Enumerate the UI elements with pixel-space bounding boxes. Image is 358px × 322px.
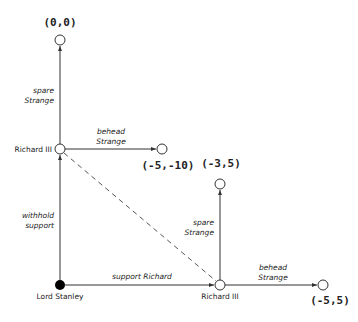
action-label-withhold: support — [25, 221, 55, 230]
game-tree-diagram: (0,0) (-5,-10) (-3,5) (-5,5) Lord Stanle… — [0, 0, 358, 322]
action-label-withhold: withhold — [22, 211, 54, 220]
action-label-bottom-behead: behead — [259, 263, 287, 272]
information-set-dashed-line — [64, 153, 216, 281]
payoff-label: (-5,5) — [310, 294, 350, 307]
payoff-label: (-3,5) — [201, 157, 241, 170]
payoff-label: (0,0) — [43, 16, 76, 29]
richard-top-node — [55, 144, 65, 154]
action-label-support-richard: support Richard — [112, 272, 172, 281]
player-label-richard-bottom: Richard III — [201, 292, 239, 301]
action-label-top-behead: Strange — [96, 137, 126, 146]
terminal-node-m3-5 — [215, 179, 225, 189]
action-label-top-spare: Strange — [24, 96, 54, 105]
action-label-bottom-spare: spare — [193, 218, 214, 227]
player-label-richard-top: Richard III — [15, 145, 53, 154]
action-label-bottom-spare: Strange — [184, 228, 214, 237]
action-label-top-spare: spare — [33, 86, 54, 95]
lord-stanley-node — [55, 280, 65, 290]
richard-bottom-node — [215, 280, 225, 290]
terminal-node-0-0 — [55, 35, 65, 45]
terminal-node-m5-5 — [318, 280, 328, 290]
action-label-bottom-behead: Strange — [258, 273, 288, 282]
payoff-label: (-5,-10) — [142, 159, 195, 172]
terminal-node-m5-m10 — [157, 144, 167, 154]
action-label-top-behead: behead — [97, 127, 125, 136]
player-label-lord-stanley: Lord Stanley — [37, 292, 84, 301]
